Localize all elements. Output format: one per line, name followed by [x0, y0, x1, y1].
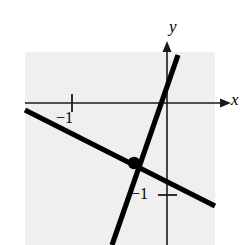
x-axis-label: x	[231, 91, 239, 108]
y-axis-tick-label-neg1: −1	[131, 186, 148, 202]
graph-figure: y x −1 −1	[0, 0, 249, 245]
coordinate-plane-svg	[0, 0, 249, 245]
x-axis-arrowhead	[220, 99, 231, 108]
y-axis-arrowhead	[163, 41, 172, 52]
y-axis-label: y	[169, 18, 177, 35]
intersection-point	[128, 157, 140, 169]
x-axis-tick-label-neg1: −1	[56, 110, 73, 126]
